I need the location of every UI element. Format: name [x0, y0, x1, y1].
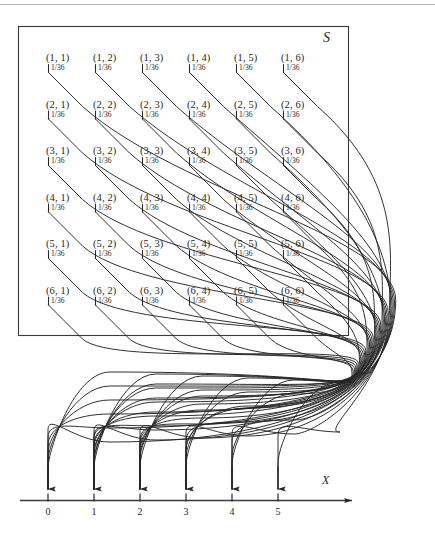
x-axis-tick-label: 0 — [40, 506, 56, 517]
outcome-label: (5, 6) — [281, 238, 304, 249]
outcome-label: (6, 2) — [93, 285, 116, 296]
outcome-label: (2, 1) — [46, 99, 69, 110]
outcome-probability-label: 1/36 — [51, 204, 65, 212]
outcome-probability-label: 1/36 — [145, 297, 159, 305]
outcome-probability-label: 1/36 — [239, 64, 253, 72]
outcome-label: (4, 2) — [93, 192, 116, 203]
outcome-label: (5, 2) — [93, 238, 116, 249]
mapping-curve — [140, 119, 385, 489]
outcome-probability-label: 1/36 — [239, 111, 253, 119]
outcome-probability-label: 1/36 — [98, 250, 112, 258]
x-axis-variable-label: X — [322, 473, 329, 488]
outcome-probability-label: 1/36 — [286, 297, 300, 305]
outcome-label: (3, 2) — [93, 145, 116, 156]
outcome-label: (3, 4) — [187, 145, 210, 156]
outcome-probability-label: 1/36 — [286, 111, 300, 119]
outcome-probability-label: 1/36 — [51, 111, 65, 119]
x-axis-tick-label: 1 — [86, 506, 102, 517]
outcome-label: (1, 1) — [46, 52, 69, 63]
outcome-label: (6, 3) — [140, 285, 163, 296]
figure-root: S (1, 1)1/36(1, 2)1/36(1, 3)1/36(1, 4)1/… — [0, 0, 435, 550]
x-axis-tick-label: 5 — [270, 506, 286, 517]
outcome-probability-label: 1/36 — [98, 64, 112, 72]
x-axis-tick-label: 2 — [132, 506, 148, 517]
x-axis-tick-label: 4 — [224, 506, 240, 517]
outcome-label: (1, 3) — [140, 52, 163, 63]
outcome-probability-label: 1/36 — [192, 111, 206, 119]
outcome-label: (1, 2) — [93, 52, 116, 63]
sample-space-symbol: S — [323, 30, 330, 46]
outcome-probability-label: 1/36 — [192, 64, 206, 72]
outcome-probability-label: 1/36 — [145, 250, 159, 258]
outcome-label: (3, 5) — [234, 145, 257, 156]
outcome-label: (6, 5) — [234, 285, 257, 296]
outcome-label: (4, 1) — [46, 192, 69, 203]
diagram-canvas — [0, 0, 435, 550]
outcome-label: (4, 3) — [140, 192, 163, 203]
outcome-label: (6, 6) — [281, 285, 304, 296]
outcome-probability-label: 1/36 — [145, 111, 159, 119]
outcome-probability-label: 1/36 — [145, 204, 159, 212]
outcome-probability-label: 1/36 — [145, 157, 159, 165]
outcome-probability-label: 1/36 — [192, 157, 206, 165]
mapping-curve — [94, 166, 380, 490]
outcome-label: (6, 4) — [187, 285, 210, 296]
outcome-probability-label: 1/36 — [286, 157, 300, 165]
outcome-label: (1, 6) — [281, 52, 304, 63]
outcome-label: (1, 5) — [234, 52, 257, 63]
outcome-probability-label: 1/36 — [51, 297, 65, 305]
outcome-label: (4, 5) — [234, 192, 257, 203]
outcome-label: (3, 1) — [46, 145, 69, 156]
outcome-label: (3, 3) — [140, 145, 163, 156]
outcome-label: (5, 4) — [187, 238, 210, 249]
outcome-probability-label: 1/36 — [51, 64, 65, 72]
outcome-probability-label: 1/36 — [192, 250, 206, 258]
outcome-probability-label: 1/36 — [51, 250, 65, 258]
outcome-probability-label: 1/36 — [51, 157, 65, 165]
outcome-label: (2, 5) — [234, 99, 257, 110]
outcome-probability-label: 1/36 — [192, 204, 206, 212]
outcome-label: (3, 6) — [281, 145, 304, 156]
outcome-label: (1, 4) — [187, 52, 210, 63]
outcome-label: (4, 6) — [281, 192, 304, 203]
mapping-curve — [278, 73, 391, 490]
outcome-probability-label: 1/36 — [98, 297, 112, 305]
outcome-label: (2, 3) — [140, 99, 163, 110]
outcome-label: (5, 3) — [140, 238, 163, 249]
outcome-label: (2, 2) — [93, 99, 116, 110]
outcome-probability-label: 1/36 — [98, 204, 112, 212]
outcome-probability-label: 1/36 — [192, 297, 206, 305]
mapping-curve — [48, 73, 396, 490]
outcome-probability-label: 1/36 — [239, 297, 253, 305]
outcome-label: (5, 1) — [46, 238, 69, 249]
outcome-label: (6, 1) — [46, 285, 69, 296]
outcome-probability-label: 1/36 — [98, 157, 112, 165]
outcome-label: (2, 6) — [281, 99, 304, 110]
outcome-label: (5, 5) — [234, 238, 257, 249]
mapping-curve — [94, 212, 368, 489]
x-axis-tick-label: 3 — [178, 506, 194, 517]
outcome-probability-label: 1/36 — [286, 204, 300, 212]
outcome-probability-label: 1/36 — [145, 64, 159, 72]
outcome-probability-label: 1/36 — [98, 111, 112, 119]
outcome-probability-label: 1/36 — [286, 250, 300, 258]
outcome-probability-label: 1/36 — [286, 64, 300, 72]
outcome-label: (4, 4) — [187, 192, 210, 203]
outcome-probability-label: 1/36 — [239, 250, 253, 258]
outcome-label: (2, 4) — [187, 99, 210, 110]
outcome-probability-label: 1/36 — [239, 157, 253, 165]
outcome-probability-label: 1/36 — [239, 204, 253, 212]
mapping-connectors — [48, 65, 396, 490]
